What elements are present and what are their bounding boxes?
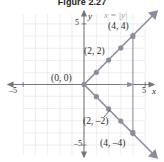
coordinate-plane-graph [0,0,164,162]
figure-container: Figure 2.27 [0,0,164,162]
point-2-neg2 [106,106,111,111]
point-0-0 [81,82,86,87]
equation-label: x = |y| [104,11,128,20]
point-label-4-4: (4, 4) [108,22,129,32]
y-axis-arrow-up [82,11,86,16]
point-4-neg4 [130,131,135,136]
point-label-0-0: (0, 0) [51,74,72,84]
point-1-neg1 [94,94,99,99]
tick-label-y-bottom: –5 [74,140,82,148]
point-label-4-neg4: (4, –4) [100,139,125,149]
point-1-1 [94,70,99,75]
point-label-2-neg2: (2, –2) [83,117,108,127]
tick-label-x-right: 5 [142,87,146,95]
tick-label-x-left: –5 [9,87,17,95]
point-4-4 [130,33,135,38]
y-axis-arrow-down [82,152,86,157]
y-axis-label: y [88,12,92,21]
tick-label-y-top: 5 [75,19,79,27]
point-3-neg3 [118,119,123,124]
point-label-2-2: (2, 2) [84,47,105,57]
point-2-2 [106,58,111,63]
x-axis-label: x [152,87,156,96]
point-3-3 [118,45,123,50]
